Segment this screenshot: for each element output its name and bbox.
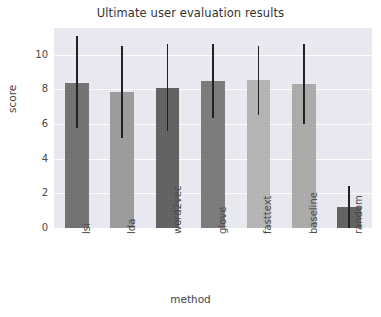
y-tick-label: 4 <box>8 154 48 164</box>
y-tick-label: 0 <box>8 223 48 233</box>
y-tick-label: 8 <box>8 84 48 94</box>
chart-figure: Ultimate user evaluation results score 0… <box>0 0 381 317</box>
chart-title: Ultimate user evaluation results <box>0 6 381 20</box>
error-bar <box>258 46 260 114</box>
error-bar <box>167 44 169 131</box>
x-axis-label: method <box>0 293 381 305</box>
y-tick-label: 2 <box>8 188 48 198</box>
x-tick-label: word2vec <box>172 185 183 234</box>
x-tick-label: lda <box>126 219 137 234</box>
error-bar <box>348 186 350 228</box>
x-tick-label: random <box>353 195 364 234</box>
error-bar <box>76 36 78 129</box>
error-bar <box>303 44 305 125</box>
error-bar <box>121 46 123 138</box>
x-tick-label: fasttext <box>262 195 273 234</box>
x-tick-label: baseline <box>308 192 319 234</box>
y-tick-label: 6 <box>8 119 48 129</box>
x-tick-label: glove <box>217 207 228 234</box>
plot-area <box>54 28 372 228</box>
error-bar <box>212 44 214 118</box>
y-tick-label: 10 <box>8 50 48 60</box>
x-tick-label: lsi <box>81 223 92 234</box>
